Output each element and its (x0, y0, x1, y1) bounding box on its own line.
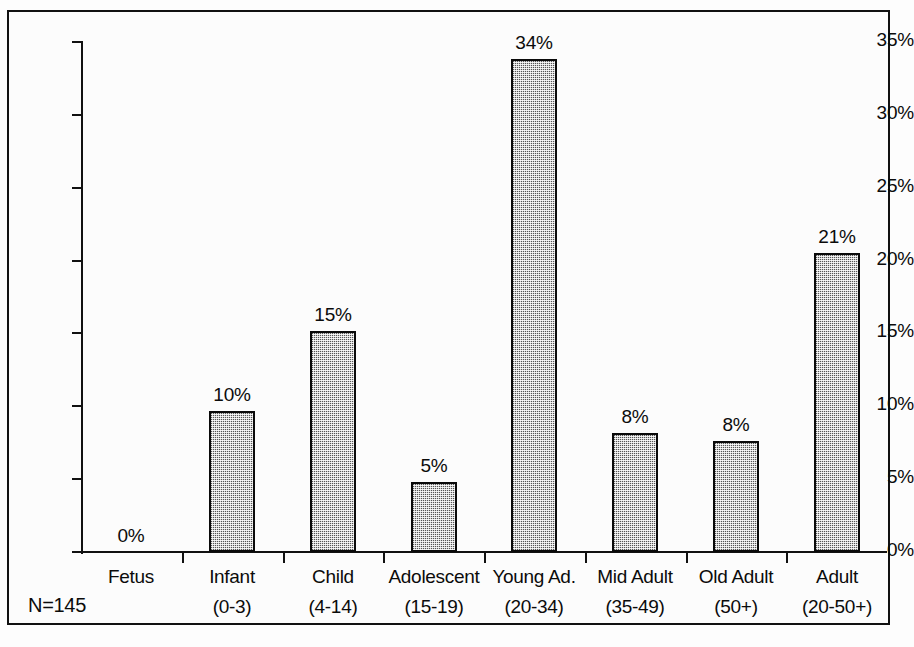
bar-value-label: 8% (585, 406, 685, 428)
bar-value-label: 10% (182, 384, 282, 406)
x-axis-tick (383, 552, 385, 563)
x-axis-tick (585, 552, 587, 563)
bar (511, 59, 557, 552)
chart-page: 0%5%10%15%20%25%30%35% 0%10%15%5%34%8%8%… (0, 0, 914, 647)
y-axis-line (81, 41, 83, 554)
category-name: Adult (777, 566, 897, 588)
y-axis-tick-label: 30% (852, 102, 914, 124)
sample-size-annotation: N=145 (28, 594, 86, 617)
bar (612, 433, 658, 552)
y-axis-tick (72, 260, 82, 262)
y-axis-tick-label: 0% (852, 539, 914, 561)
y-axis-tick-label: 25% (852, 175, 914, 197)
y-axis-tick-label: 15% (852, 320, 914, 342)
x-axis-tick (283, 552, 285, 563)
x-axis-category-label: Adult(20-50+) (777, 566, 897, 618)
x-axis-tick (686, 552, 688, 563)
y-axis-tick (72, 187, 82, 189)
y-axis-tick (72, 405, 82, 407)
y-axis-tick (72, 332, 82, 334)
bar (411, 482, 457, 552)
bar (209, 411, 255, 552)
bar-value-label: 15% (283, 304, 383, 326)
bar-value-label: 21% (787, 226, 887, 248)
bar-value-label: 0% (81, 525, 181, 547)
bar (713, 441, 759, 552)
bar-value-label: 8% (686, 414, 786, 436)
category-age-range: (20-50+) (777, 596, 897, 618)
y-axis-tick-label: 20% (852, 248, 914, 270)
y-axis-tick (72, 551, 82, 553)
x-axis-tick (182, 552, 184, 563)
bar (814, 253, 860, 552)
y-axis-tick (72, 114, 82, 116)
y-axis-tick-label: 35% (852, 29, 914, 51)
bar-value-label: 5% (384, 455, 484, 477)
x-axis-tick (786, 552, 788, 563)
y-axis-tick-label: 10% (852, 393, 914, 415)
y-axis-tick-label: 5% (852, 466, 914, 488)
bar (310, 331, 356, 552)
y-axis-tick (72, 41, 82, 43)
bar-value-label: 34% (484, 32, 584, 54)
x-axis-tick (484, 552, 486, 563)
y-axis-tick (72, 478, 82, 480)
